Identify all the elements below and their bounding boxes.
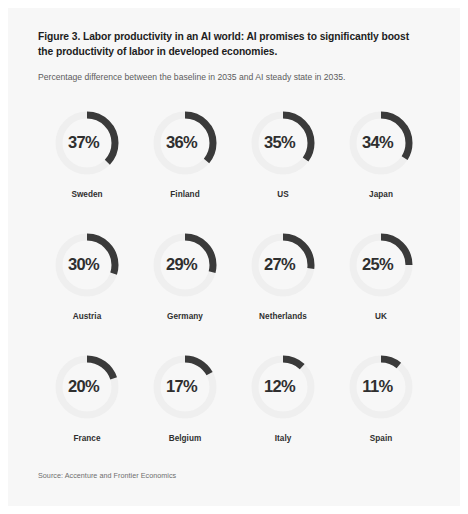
donut-gauge: 17%Belgium: [136, 351, 234, 443]
figure-source-note: Source: Accenture and Frontier Economics: [38, 471, 176, 480]
donut-country-label: Spain: [370, 434, 393, 443]
donut-gauge-ring: 27%: [247, 229, 319, 301]
donut-gauge-ring: 12%: [247, 351, 319, 423]
donut-gauge-grid: 37%Sweden36%Finland35%US34%Japan30%Austr…: [38, 107, 430, 443]
donut-country-label: Italy: [275, 434, 292, 443]
donut-gauge: 25%UK: [332, 229, 430, 321]
donut-value-text: 27%: [247, 229, 319, 301]
donut-value-text: 35%: [247, 107, 319, 179]
donut-gauge-ring: 29%: [149, 229, 221, 301]
donut-country-label: Belgium: [169, 434, 202, 443]
donut-gauge: 36%Finland: [136, 107, 234, 199]
donut-value-text: 25%: [345, 229, 417, 301]
donut-country-label: France: [73, 434, 100, 443]
figure-card: Figure 3. Labor productivity in an AI wo…: [8, 8, 460, 506]
donut-value-text: 11%: [345, 351, 417, 423]
donut-value-text: 36%: [149, 107, 221, 179]
donut-country-label: Germany: [167, 312, 203, 321]
donut-gauge-ring: 20%: [51, 351, 123, 423]
donut-gauge: 29%Germany: [136, 229, 234, 321]
donut-value-text: 29%: [149, 229, 221, 301]
donut-value-text: 12%: [247, 351, 319, 423]
donut-gauge: 12%Italy: [234, 351, 332, 443]
donut-gauge-ring: 17%: [149, 351, 221, 423]
donut-value-text: 34%: [345, 107, 417, 179]
figure-title: Figure 3. Labor productivity in an AI wo…: [38, 30, 410, 60]
donut-gauge-ring: 37%: [51, 107, 123, 179]
donut-gauge: 37%Sweden: [38, 107, 136, 199]
donut-country-label: US: [277, 190, 288, 199]
donut-gauge-ring: 11%: [345, 351, 417, 423]
donut-gauge: 27%Netherlands: [234, 229, 332, 321]
donut-country-label: UK: [375, 312, 387, 321]
donut-country-label: Austria: [73, 312, 102, 321]
figure-subtitle: Percentage difference between the baseli…: [38, 71, 430, 83]
donut-gauge: 34%Japan: [332, 107, 430, 199]
donut-country-label: Finland: [170, 190, 199, 199]
donut-gauge-ring: 35%: [247, 107, 319, 179]
donut-value-text: 37%: [51, 107, 123, 179]
donut-value-text: 17%: [149, 351, 221, 423]
donut-gauge: 11%Spain: [332, 351, 430, 443]
donut-gauge: 20%France: [38, 351, 136, 443]
donut-gauge: 35%US: [234, 107, 332, 199]
donut-gauge: 30%Austria: [38, 229, 136, 321]
donut-country-label: Netherlands: [259, 312, 307, 321]
donut-value-text: 30%: [51, 229, 123, 301]
donut-value-text: 20%: [51, 351, 123, 423]
donut-country-label: Japan: [369, 190, 393, 199]
donut-country-label: Sweden: [71, 190, 102, 199]
donut-gauge-ring: 34%: [345, 107, 417, 179]
donut-gauge-ring: 25%: [345, 229, 417, 301]
donut-gauge-ring: 30%: [51, 229, 123, 301]
donut-gauge-ring: 36%: [149, 107, 221, 179]
